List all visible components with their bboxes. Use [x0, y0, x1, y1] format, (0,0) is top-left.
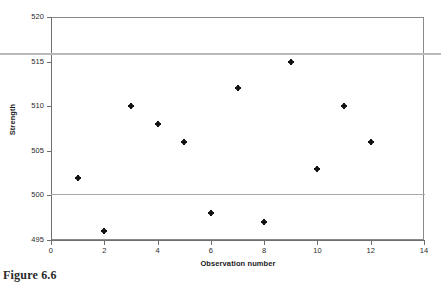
figure-container: 495500505510515520 02468101214 Strength … — [0, 0, 441, 290]
data-point — [315, 167, 319, 171]
x-axis-line — [51, 240, 425, 241]
plot-frame — [51, 17, 424, 240]
x-axis-tick-label: 10 — [305, 246, 329, 255]
x-axis-tick-label: 14 — [412, 246, 436, 255]
data-point — [342, 104, 346, 108]
y-axis-tick — [47, 106, 51, 107]
data-point — [236, 86, 240, 90]
y-axis-tick-label-text: 515 — [0, 58, 44, 66]
x-axis-tick — [264, 241, 265, 245]
data-point — [289, 60, 293, 64]
x-axis-tick-label: 2 — [92, 246, 116, 255]
x-axis-tick — [317, 241, 318, 245]
x-axis-tick-label: 4 — [146, 246, 170, 255]
x-axis-title: Observation number — [51, 259, 425, 268]
upper-limit-line — [0, 53, 441, 55]
x-axis-tick-label-text: 14 — [412, 246, 436, 255]
y-axis-tick-label: 520 — [0, 13, 44, 21]
y-axis-tick — [47, 151, 51, 152]
y-axis-tick-label: 515 — [0, 58, 44, 66]
x-axis-tick-label-text: 10 — [305, 246, 329, 255]
x-axis-tick — [104, 241, 105, 245]
y-axis-tick — [47, 17, 51, 18]
y-axis-tick-label-text: 520 — [0, 13, 44, 21]
x-axis-tick-label: 6 — [199, 246, 223, 255]
data-point — [262, 220, 266, 224]
chart-plot-area: 495500505510515520 02468101214 Strength … — [0, 0, 441, 262]
lower-limit-line — [51, 194, 425, 195]
x-axis-tick-label: 12 — [359, 246, 383, 255]
data-point — [182, 140, 186, 144]
data-point — [369, 140, 373, 144]
x-axis-tick-label-text: 2 — [92, 246, 116, 255]
y-axis-tick — [47, 62, 51, 63]
x-axis-tick — [158, 241, 159, 245]
x-axis-tick — [424, 241, 425, 245]
data-point — [129, 104, 133, 108]
x-axis-tick-label: 0 — [39, 246, 63, 255]
y-axis-tick — [47, 195, 51, 196]
y-axis-line — [51, 17, 52, 241]
data-point — [209, 211, 213, 215]
y-axis-tick-label-text: 500 — [0, 191, 44, 199]
data-point — [156, 122, 160, 126]
x-axis-tick-label: 8 — [252, 246, 276, 255]
x-axis-tick-label-text: 0 — [39, 246, 63, 255]
data-point — [76, 176, 80, 180]
y-axis-title: Strength — [8, 90, 17, 150]
y-axis-tick-label: 500 — [0, 191, 44, 199]
x-axis-tick — [371, 241, 372, 245]
x-axis-tick-label-text: 8 — [252, 246, 276, 255]
data-point — [102, 229, 106, 233]
x-axis-tick — [211, 241, 212, 245]
y-axis-tick-label: 495 — [0, 236, 44, 244]
figure-caption: Figure 6.6 — [3, 268, 57, 283]
x-axis-tick-label-text: 4 — [146, 246, 170, 255]
x-axis-tick-label-text: 12 — [359, 246, 383, 255]
x-axis-tick — [51, 241, 52, 245]
x-axis-tick-label-text: 6 — [199, 246, 223, 255]
y-axis-tick-label-text: 495 — [0, 236, 44, 244]
